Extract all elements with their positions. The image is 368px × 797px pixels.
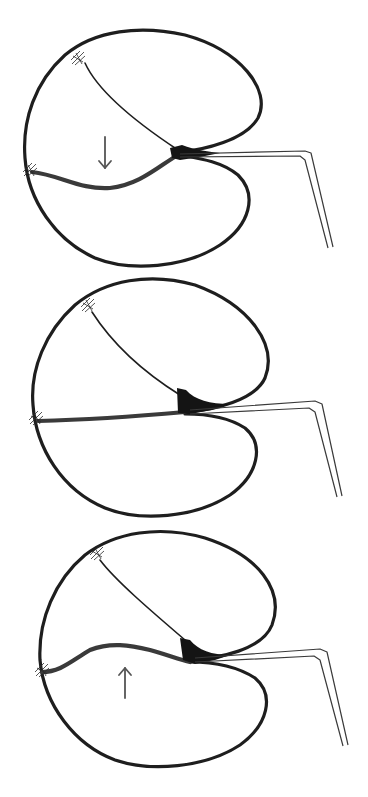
arrow-down-icon xyxy=(99,137,111,168)
commissure-nexus xyxy=(71,51,85,65)
outer-wall xyxy=(33,279,269,516)
panel-middle xyxy=(29,279,342,516)
moving-leaflet xyxy=(38,412,185,421)
commissure-nexus xyxy=(90,546,104,560)
panel-top xyxy=(23,30,333,266)
moving-leaflet xyxy=(42,645,190,672)
outer-wall xyxy=(40,532,275,767)
upper-leaflet xyxy=(100,560,185,640)
upper-leaflet xyxy=(85,63,178,150)
figure-svg xyxy=(0,0,368,797)
upper-leaflet xyxy=(92,312,180,395)
arrow-up-icon xyxy=(119,668,131,698)
panel-bottom xyxy=(35,532,348,767)
figure-canvas: Three stacked schematic cross-sections o… xyxy=(0,0,368,797)
pipette xyxy=(180,151,333,248)
outer-wall xyxy=(25,30,262,266)
junction-mass xyxy=(177,388,230,414)
